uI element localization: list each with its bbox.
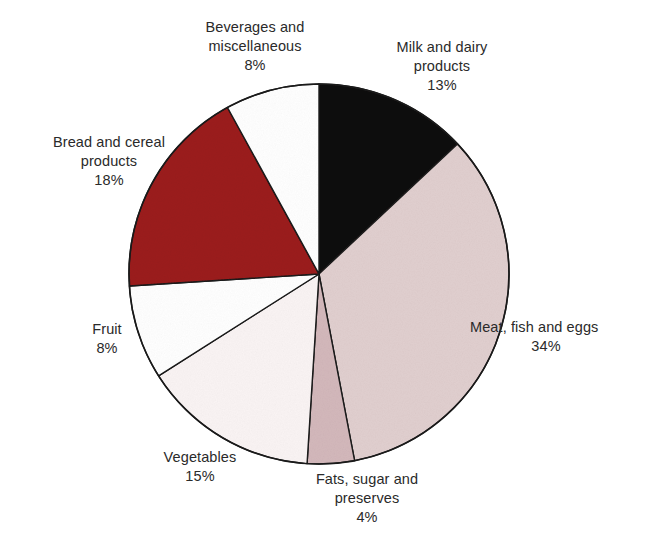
slice-label-bread: Bread and cereal products 18% — [14, 133, 204, 190]
slice-label-beverages: Beverages and miscellaneous 8% — [160, 18, 350, 75]
slice-value-milk: 13% — [352, 76, 532, 95]
slice-label-vegetables-line1: Vegetables — [110, 448, 290, 467]
slice-label-meat-line1: Meat, fish and eggs — [470, 318, 650, 337]
slice-label-bread-line2: products — [14, 152, 204, 171]
pie-chart-figure: Beverages and miscellaneous 8% Milk and … — [0, 0, 655, 551]
slice-label-fats-line1: Fats, sugar and — [272, 470, 462, 489]
slice-label-beverages-line1: Beverages and — [160, 18, 350, 37]
slice-value-vegetables: 15% — [110, 467, 290, 486]
slice-label-fruit-line1: Fruit — [52, 320, 162, 339]
slice-label-fruit: Fruit 8% — [52, 320, 162, 358]
slice-label-milk-line2: products — [352, 57, 532, 76]
slice-label-fats: Fats, sugar and preserves 4% — [272, 470, 462, 527]
slice-value-fruit: 8% — [52, 339, 162, 358]
slice-label-meat: Meat, fish and eggs 34% — [470, 318, 650, 356]
slice-label-milk: Milk and dairy products 13% — [352, 38, 532, 95]
slice-label-beverages-line2: miscellaneous — [160, 37, 350, 56]
slice-value-meat: 34% — [470, 337, 622, 356]
pie-chart-svg — [0, 0, 655, 551]
slice-value-beverages: 8% — [160, 56, 350, 75]
slice-label-milk-line1: Milk and dairy — [352, 38, 532, 57]
slice-value-fats: 4% — [272, 508, 462, 527]
slice-label-bread-line1: Bread and cereal — [14, 133, 204, 152]
slice-value-bread: 18% — [14, 171, 204, 190]
slice-label-vegetables: Vegetables 15% — [110, 448, 290, 486]
slice-label-fats-line2: preserves — [272, 489, 462, 508]
